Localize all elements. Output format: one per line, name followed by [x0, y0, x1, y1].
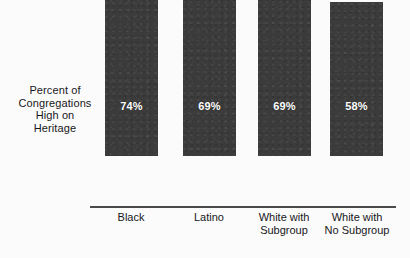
bar-value-black: 74%	[105, 100, 158, 112]
bar-black[interactable]	[105, 0, 158, 156]
bar-value-latino: 69%	[183, 100, 236, 112]
tick-white-no-subgroup-line-1: White with	[318, 211, 396, 224]
x-axis-tick-label-white-no-subgroup: White with No Subgroup	[318, 211, 396, 237]
x-axis-tick-label-latino: Latino	[170, 211, 248, 224]
bar-value-white-with-subgroup: 69%	[258, 100, 311, 112]
bar-chart: Percent of Congregations High on Heritag…	[0, 0, 410, 258]
y-axis-label: Percent of Congregations High on Heritag…	[10, 84, 100, 134]
tick-white-with-subgroup-line-2: Subgroup	[245, 224, 323, 237]
y-axis-label-line-2: Congregations	[10, 97, 100, 110]
tick-white-no-subgroup-line-2: No Subgroup	[318, 224, 396, 237]
x-axis-tick-label-white-with-subgroup: White with Subgroup	[245, 211, 323, 237]
bar-value-white-no-subgroup: 58%	[330, 100, 383, 112]
plot-area: 74% 69% 69% 58% Black Latino White with …	[90, 0, 396, 208]
x-axis-line	[90, 206, 396, 208]
y-axis-label-line-1: Percent of	[10, 84, 100, 97]
bar-white-no-subgroup[interactable]	[330, 2, 383, 156]
tick-white-with-subgroup-line-1: White with	[245, 211, 323, 224]
tick-latino-line-1: Latino	[170, 211, 248, 224]
bar-white-with-subgroup[interactable]	[258, 0, 311, 156]
x-axis-tick-label-black: Black	[92, 211, 170, 224]
y-axis-label-line-4: Heritage	[10, 122, 100, 135]
bar-latino[interactable]	[183, 0, 236, 156]
y-axis-label-line-3: High on	[10, 109, 100, 122]
tick-black-line-1: Black	[92, 211, 170, 224]
